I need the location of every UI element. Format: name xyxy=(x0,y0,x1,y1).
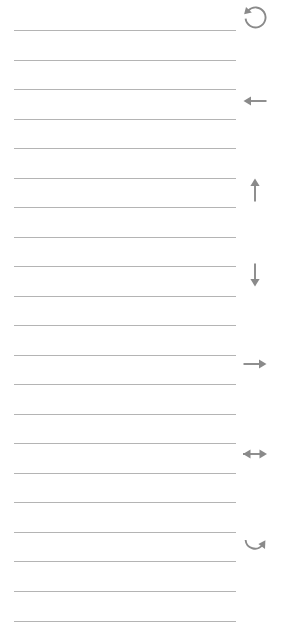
arrow-left-icon-glyph xyxy=(238,84,272,118)
arrow-right-icon-glyph xyxy=(238,347,272,381)
arrow-up-icon-glyph xyxy=(238,173,272,207)
arrow-right-icon[interactable] xyxy=(238,347,272,381)
arrow-down-icon-glyph xyxy=(238,258,272,292)
arrow-left-icon[interactable] xyxy=(238,84,272,118)
rotate-clockwise-icon[interactable] xyxy=(238,528,272,562)
rotate-clockwise-icon-glyph xyxy=(238,528,272,562)
rotate-counterclockwise-icon-glyph xyxy=(238,1,272,35)
arrow-left-right-icon[interactable] xyxy=(238,437,272,471)
arrow-down-icon[interactable] xyxy=(238,258,272,292)
rotate-counterclockwise-icon[interactable] xyxy=(238,1,272,35)
arrow-left-right-icon-glyph xyxy=(238,437,272,471)
arrow-up-icon[interactable] xyxy=(238,173,272,207)
ruled-page xyxy=(0,0,286,642)
arrow-icon-group xyxy=(0,0,286,642)
